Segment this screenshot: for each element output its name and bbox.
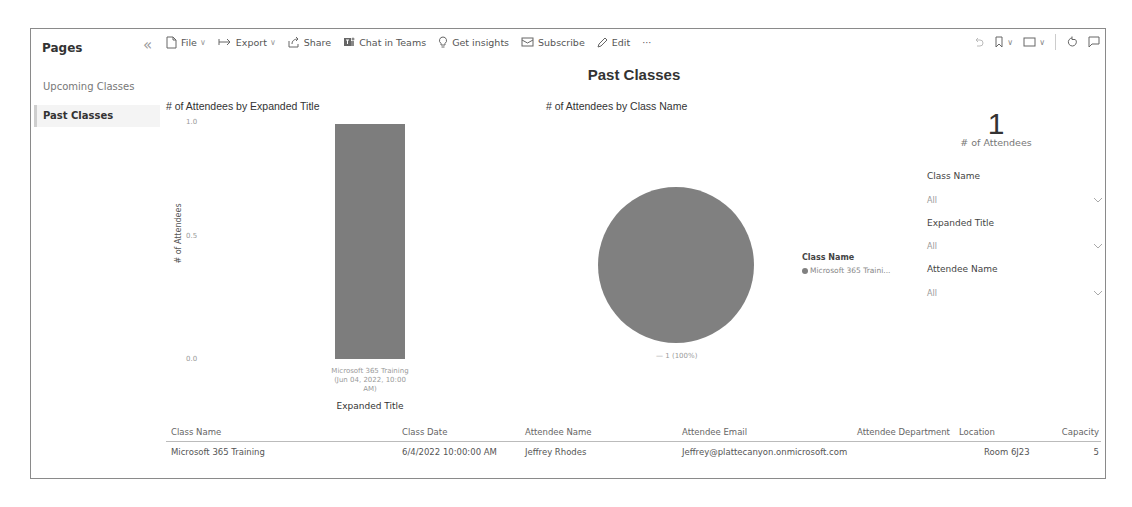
subscribe-label: Subscribe: [538, 37, 585, 48]
card-value: 1: [931, 107, 1061, 141]
share-label: Share: [304, 37, 331, 48]
chevron-down-icon: ∨: [1039, 38, 1045, 47]
pie-chart-title: # of Attendees by Class Name: [546, 100, 687, 112]
column-header-capacity[interactable]: Capacity: [1062, 427, 1099, 437]
cell-attendee-name: Jeffrey Rhodes: [525, 447, 586, 457]
chevron-down-icon: ∨: [270, 38, 276, 47]
cell-capacity: 5: [1094, 447, 1099, 457]
slicer-attendee-name-label: Attendee Name: [927, 264, 998, 274]
x-axis-label: Expanded Title: [320, 401, 420, 411]
export-icon: [218, 37, 232, 47]
cell-class-date: 6/4/2022 10:00:00 AM: [402, 447, 497, 457]
slicer-expanded-title-label: Expanded Title: [927, 218, 994, 228]
subscribe-button[interactable]: Subscribe: [521, 37, 585, 48]
bookmark-icon: [994, 36, 1004, 48]
export-label: Export: [236, 37, 267, 48]
teams-icon: [343, 36, 355, 48]
undo-icon: [973, 37, 984, 48]
export-menu-button[interactable]: Export ∨: [218, 37, 276, 48]
pages-sidebar: Pages « Upcoming Classes Past Classes: [31, 29, 161, 478]
undo-button[interactable]: [973, 37, 984, 48]
pencil-icon: [597, 37, 608, 48]
sidebar-item-past-classes[interactable]: Past Classes: [34, 105, 160, 127]
collapse-pane-button[interactable]: «: [143, 36, 152, 54]
chevron-down-icon: [1093, 240, 1103, 252]
comment-button[interactable]: [1088, 36, 1100, 48]
cell-location: Room 6J23: [984, 447, 1030, 457]
toolbar-right: ∨ ∨: [963, 29, 1100, 55]
share-button[interactable]: Share: [288, 36, 331, 48]
report-frame: Pages « Upcoming Classes Past Classes Fi…: [30, 28, 1106, 479]
view-icon: [1023, 37, 1036, 47]
mail-icon: [521, 37, 534, 47]
slicer-class-name-value: All: [927, 196, 937, 205]
toolbar: File ∨ Export ∨ Share Chat in Teams Get …: [166, 29, 1106, 55]
chevron-down-icon: ∨: [1007, 38, 1013, 47]
pie-slice-microsoft-365-training[interactable]: [598, 187, 754, 343]
slicer-attendee-name-dropdown[interactable]: All: [927, 287, 1103, 303]
y-tick-1.0: 1.0: [186, 118, 197, 126]
pie-data-label-text: 1 (100%): [665, 352, 697, 360]
edit-label: Edit: [612, 37, 630, 48]
bar-chart[interactable]: 1.0 0.5 0.0 # of Attendees Microsoft 365…: [166, 101, 541, 421]
slicer-expanded-title-dropdown[interactable]: All: [927, 240, 1103, 256]
column-header-class-date[interactable]: Class Date: [402, 427, 447, 437]
sidebar-item-upcoming-classes[interactable]: Upcoming Classes: [34, 76, 160, 98]
get-insights-label: Get insights: [452, 37, 509, 48]
y-axis-label: # of Attendees: [174, 203, 183, 263]
chevron-down-icon: [1093, 287, 1103, 299]
column-header-location[interactable]: Location: [959, 427, 995, 437]
table-header-row: Class Name Class Date Attendee Name Atte…: [166, 422, 1101, 442]
view-button[interactable]: ∨: [1023, 37, 1045, 47]
chat-in-teams-button[interactable]: Chat in Teams: [343, 36, 426, 48]
file-label: File: [181, 37, 197, 48]
column-header-class-name[interactable]: Class Name: [171, 427, 221, 437]
comment-icon: [1088, 36, 1100, 48]
pages-header: Pages: [42, 41, 82, 55]
y-tick-0.5: 0.5: [186, 232, 197, 240]
column-header-attendee-name[interactable]: Attendee Name: [525, 427, 592, 437]
bookmark-button[interactable]: ∨: [994, 36, 1013, 48]
x-tick-label: Microsoft 365 Training (Jun 04, 2022, 10…: [330, 367, 410, 394]
cell-attendee-email: Jeffrey@plattecanyon.onmicrosoft.com: [682, 447, 847, 457]
chevron-down-icon: ∨: [200, 38, 206, 47]
table-row[interactable]: Microsoft 365 Training 6/4/2022 10:00:00…: [166, 442, 1101, 462]
cell-class-name: Microsoft 365 Training: [171, 447, 265, 457]
slicer-expanded-title-value: All: [927, 242, 937, 251]
more-options-button[interactable]: ···: [642, 37, 651, 48]
legend-dot-icon: [802, 268, 808, 274]
pie-legend-item[interactable]: Microsoft 365 Traini...: [802, 266, 890, 275]
card-label: # of Attendees: [931, 137, 1061, 148]
attendees-table: Class Name Class Date Attendee Name Atte…: [166, 422, 1101, 462]
file-icon: [166, 36, 177, 49]
pie-data-label: — 1 (100%): [656, 352, 697, 360]
y-tick-0.0: 0.0: [186, 355, 197, 363]
report-title: Past Classes: [161, 66, 1107, 83]
slicer-attendee-name-value: All: [927, 289, 937, 298]
bar-microsoft-365-training[interactable]: [335, 124, 405, 359]
column-header-attendee-department[interactable]: Attendee Department: [857, 427, 950, 437]
chat-in-teams-label: Chat in Teams: [359, 37, 426, 48]
pie-legend-title: Class Name: [802, 253, 854, 262]
slicer-class-name-label: Class Name: [927, 171, 980, 181]
column-header-attendee-email[interactable]: Attendee Email: [682, 427, 747, 437]
share-icon: [288, 36, 300, 48]
toolbar-separator: [1055, 34, 1056, 50]
slicer-class-name-dropdown[interactable]: All: [927, 194, 1103, 210]
more-icon: ···: [642, 37, 651, 48]
double-chevron-left-icon: «: [143, 36, 152, 54]
edit-button[interactable]: Edit: [597, 37, 630, 48]
lightbulb-icon: [438, 36, 448, 48]
refresh-icon: [1066, 36, 1078, 48]
refresh-button[interactable]: [1066, 36, 1078, 48]
get-insights-button[interactable]: Get insights: [438, 36, 509, 48]
chevron-down-icon: [1093, 194, 1103, 206]
legend-item-label: Microsoft 365 Traini...: [810, 266, 890, 275]
file-menu-button[interactable]: File ∨: [166, 36, 206, 49]
